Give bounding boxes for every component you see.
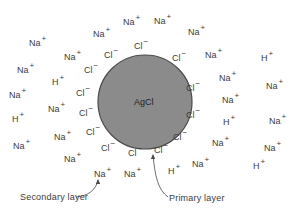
ion-charge: − [96, 123, 101, 132]
sodium-ion: Na+ [219, 74, 236, 83]
ion-symbol: Cl [186, 110, 195, 120]
sodium-ion: Na+ [123, 18, 140, 27]
ion-symbol: Na [94, 169, 106, 179]
ion-charge: − [111, 139, 116, 148]
ion-charge: + [20, 110, 25, 119]
ion-symbol: Na [124, 169, 136, 179]
ion-charge: + [261, 157, 266, 166]
sodium-ion: Na+ [205, 51, 222, 60]
hydrogen-ion: H+ [261, 54, 273, 63]
ion-charge: − [94, 61, 99, 70]
ion-symbol: Na [93, 29, 105, 39]
ion-charge: − [183, 128, 188, 137]
ion-charge: + [106, 25, 111, 34]
chloride-ion: Cl− [154, 146, 168, 155]
ion-charge: − [86, 84, 91, 93]
ion-charge: + [218, 46, 223, 55]
chloride-ion: Cl− [84, 66, 98, 75]
ion-symbol: H [52, 77, 59, 87]
sodium-ion: Na+ [9, 91, 26, 100]
chloride-ion: Cl− [134, 42, 148, 51]
ion-symbol: Cl [186, 83, 195, 93]
ion-charge: + [277, 139, 282, 148]
ion-charge: + [42, 34, 47, 43]
chloride-ion: Cl− [101, 144, 115, 153]
chloride-ion: Cl− [172, 54, 186, 63]
ion-charge: + [137, 165, 142, 174]
ion-symbol: H [261, 53, 268, 63]
particle-label: AgCl [134, 97, 154, 107]
ion-symbol: H [253, 161, 260, 171]
ion-symbol: Cl [101, 143, 110, 153]
chloride-ion: Cl− [186, 84, 200, 93]
ion-symbol: Cl [104, 50, 113, 60]
sodium-ion: Na+ [222, 96, 239, 105]
chloride-ion: Cl− [173, 133, 187, 142]
ion-charge: + [26, 137, 31, 146]
ion-charge: + [231, 113, 236, 122]
sodium-ion: Na+ [48, 105, 65, 114]
ion-symbol: H [12, 114, 19, 124]
ion-symbol: Cl [128, 148, 137, 158]
ion-charge: − [114, 46, 119, 55]
sodium-ion: Na+ [29, 39, 46, 48]
secondary-arrowhead-icon [96, 179, 100, 184]
ion-charge: + [61, 100, 66, 109]
chloride-ion: Cl− [79, 109, 93, 118]
hydrogen-ion: H+ [12, 115, 24, 124]
ion-symbol: H [223, 117, 230, 127]
ion-charge: + [235, 91, 240, 100]
chloride-ion: Cl− [86, 128, 100, 137]
ion-charge: + [269, 49, 274, 58]
hydrogen-ion: H+ [253, 162, 265, 171]
ion-symbol: H [168, 166, 175, 176]
hydrogen-ion: H+ [168, 167, 180, 176]
hydrogen-ion: H+ [52, 78, 64, 87]
ion-symbol: Na [222, 95, 234, 105]
ion-symbol: Na [192, 159, 204, 169]
ion-symbol: Na [264, 143, 276, 153]
ion-symbol: Cl [79, 108, 88, 118]
sodium-ion: Na+ [54, 133, 71, 142]
ion-charge: − [138, 144, 143, 153]
sodium-ion: Na+ [269, 117, 286, 126]
sodium-ion: Na+ [93, 30, 110, 39]
ion-symbol: Na [123, 17, 135, 27]
sodium-ion: Na+ [154, 17, 171, 26]
ion-symbol: Na [48, 104, 60, 114]
ion-charge: − [196, 106, 201, 115]
primary-layer-caption: Primary layer [169, 193, 225, 203]
sodium-ion: Na+ [64, 155, 81, 164]
ion-symbol: Na [188, 27, 200, 37]
hydrogen-ion: H+ [223, 118, 235, 127]
ion-symbol: Na [64, 154, 76, 164]
ion-symbol: Na [212, 138, 224, 148]
ion-symbol: Cl [84, 65, 93, 75]
ion-charge: + [282, 112, 287, 121]
ion-symbol: Na [17, 65, 29, 75]
ion-charge: + [136, 13, 141, 22]
ion-charge: + [279, 77, 284, 86]
ion-charge: − [89, 104, 94, 113]
ion-charge: + [77, 150, 82, 159]
chloride-ion: Cl− [76, 89, 90, 98]
ion-charge: − [164, 141, 169, 150]
ion-charge: − [144, 37, 149, 46]
ion-symbol: Na [29, 38, 41, 48]
ion-symbol: Cl [154, 145, 163, 155]
chloride-ion: Cl− [186, 111, 200, 120]
ion-charge: + [22, 86, 27, 95]
sodium-ion: Na+ [17, 66, 34, 75]
primary-layer-arrow [153, 155, 168, 197]
chloride-ion: Cl− [104, 51, 118, 60]
ion-symbol: Na [154, 16, 166, 26]
ion-charge: + [225, 134, 230, 143]
ion-charge: − [196, 79, 201, 88]
ion-symbol: Na [266, 81, 278, 91]
ion-charge: − [182, 49, 187, 58]
sodium-ion: Na+ [264, 144, 281, 153]
sodium-ion: Na+ [94, 170, 111, 179]
sodium-ion: Na+ [13, 142, 30, 151]
adsorption-diagram: AgCl Cl−Cl−Cl−Cl−Cl−Cl−Cl−Cl−Cl−Cl−Cl−Cl… [0, 0, 301, 212]
ion-symbol: Na [64, 52, 76, 62]
